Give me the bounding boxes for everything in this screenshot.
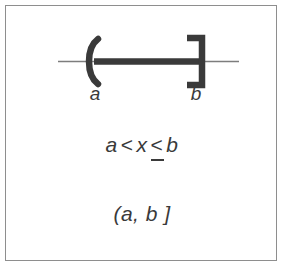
interval-notation: (a, b ] — [6, 202, 278, 226]
inequality-expression: a<x<b — [6, 133, 278, 157]
inequality-right-var: b — [166, 133, 178, 156]
number-line-diagram — [6, 6, 278, 111]
less-than-or-equal-operator: < — [148, 133, 167, 157]
inequality-left-var: a — [106, 133, 118, 156]
less-than-or-equal-underbar — [151, 159, 165, 161]
figure-frame: a b a<x<b (a, b ] — [5, 5, 277, 261]
less-than-operator: < — [118, 133, 137, 156]
less-than-or-equal-glyph: < — [151, 133, 164, 156]
inequality-variable: x — [137, 133, 148, 156]
endpoint-label-a: a — [80, 84, 110, 103]
endpoint-label-b: b — [181, 84, 211, 103]
